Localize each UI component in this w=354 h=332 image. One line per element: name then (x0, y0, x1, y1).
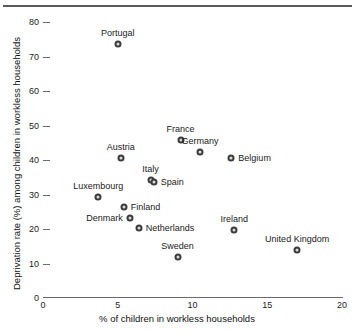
data-point (294, 247, 301, 254)
data-point-label: Spain (161, 177, 184, 187)
data-point-label: Netherlands (146, 223, 195, 233)
data-point (114, 41, 121, 48)
plot-area: 01020304050607080 05101520 PortugalFranc… (0, 0, 354, 332)
data-point-label: Luxembourg (73, 181, 123, 191)
y-tick-mark (43, 126, 50, 127)
x-axis-title: % of children in workless households (0, 314, 354, 324)
data-point-label: Ireland (221, 214, 249, 224)
data-point-label: Italy (142, 164, 159, 174)
data-point-label: Belgium (238, 153, 271, 163)
y-tick-mark (43, 91, 50, 92)
x-tick-label: 0 (31, 301, 55, 310)
data-point (231, 226, 238, 233)
y-tick-mark (43, 57, 50, 58)
x-tick-label: 20 (330, 301, 354, 310)
data-point-label: Portugal (101, 28, 135, 38)
x-tick-label: 10 (181, 301, 205, 310)
data-point (150, 179, 157, 186)
data-point (120, 204, 127, 211)
data-point-label: Germany (181, 136, 218, 146)
y-tick-label: 80 (17, 18, 39, 27)
data-point (95, 193, 102, 200)
y-tick-mark (43, 160, 50, 161)
y-tick-mark (43, 229, 50, 230)
data-point (228, 154, 235, 161)
data-point (196, 149, 203, 156)
data-point-label: Finland (131, 202, 161, 212)
data-point-label: Sweden (161, 241, 194, 251)
x-tick-label: 15 (255, 301, 279, 310)
x-tick-label: 5 (106, 301, 130, 310)
data-point (174, 253, 181, 260)
x-axis-line (43, 297, 343, 298)
data-point (126, 214, 133, 221)
data-point-label: France (167, 124, 195, 134)
data-point-label: Denmark (86, 213, 123, 223)
data-point-label: Austria (107, 142, 135, 152)
y-tick-mark (43, 195, 50, 196)
y-axis-title: Deprivation rate (%) among children in w… (12, 37, 22, 290)
y-tick-mark (43, 22, 50, 23)
scatter-chart-figure: 01020304050607080 05101520 PortugalFranc… (0, 0, 354, 332)
data-point-label: United Kingdom (265, 234, 329, 244)
data-point (135, 224, 142, 231)
data-point (117, 154, 124, 161)
y-tick-mark (43, 264, 50, 265)
